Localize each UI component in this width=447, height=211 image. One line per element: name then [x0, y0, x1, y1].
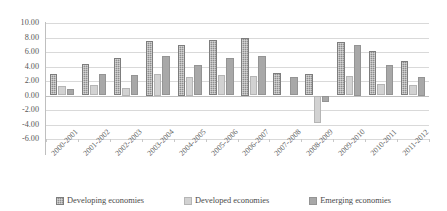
- bar-group: [365, 23, 397, 139]
- bar-group: [174, 23, 206, 139]
- bar-slot: [401, 23, 408, 139]
- bar[interactable]: [354, 45, 361, 96]
- bar-slot: [114, 23, 121, 139]
- bar[interactable]: [346, 76, 353, 96]
- bar[interactable]: [377, 84, 384, 96]
- legend-item-label: Developed economies: [195, 196, 269, 205]
- bar-slot: [58, 23, 65, 139]
- bar[interactable]: [194, 65, 201, 95]
- x-axis-tick-mark: [46, 139, 47, 142]
- bar[interactable]: [82, 64, 89, 96]
- bar-group: [269, 23, 301, 139]
- bar[interactable]: [58, 86, 65, 95]
- bar-slot: [218, 23, 225, 139]
- bar[interactable]: [146, 41, 153, 95]
- bar-group: [301, 23, 333, 139]
- bar[interactable]: [90, 85, 97, 95]
- bar-slot: [186, 23, 193, 139]
- bar[interactable]: [401, 61, 408, 95]
- bar[interactable]: [186, 77, 193, 95]
- bar[interactable]: [273, 73, 280, 95]
- bar-slot: [162, 23, 169, 139]
- bar-group: [46, 23, 78, 139]
- x-axis-tick-mark: [429, 139, 430, 142]
- bar-slot: [209, 23, 216, 139]
- bar-slot: [146, 23, 153, 139]
- bar[interactable]: [305, 74, 312, 95]
- bar[interactable]: [250, 76, 257, 96]
- legend-item[interactable]: Developing economies: [56, 196, 144, 205]
- x-axis-tick-mark: [206, 139, 207, 142]
- bar-slot: [369, 23, 376, 139]
- bar[interactable]: [369, 51, 376, 96]
- x-axis-tick-mark: [301, 139, 302, 142]
- bar-slot: [409, 23, 416, 139]
- bar[interactable]: [114, 58, 121, 96]
- bar-slot: [354, 23, 361, 139]
- plot-bars: [46, 23, 429, 139]
- bar[interactable]: [337, 42, 344, 96]
- bar-slot: [346, 23, 353, 139]
- x-axis-tick-mark: [142, 139, 143, 142]
- y-axis-tick-label: 4.00: [25, 63, 39, 71]
- x-axis-tick-mark: [365, 139, 366, 142]
- y-axis-tick-label: 2.00: [25, 77, 39, 85]
- bar[interactable]: [50, 74, 57, 95]
- bar-slot: [273, 23, 280, 139]
- x-axis-tick-mark: [110, 139, 111, 142]
- x-axis-tick-mark: [397, 139, 398, 142]
- bar[interactable]: [131, 75, 138, 95]
- x-axis-tick-mark: [174, 139, 175, 142]
- y-axis-tick-label: -2.00: [22, 106, 39, 114]
- x-axis-tick-mark: [238, 139, 239, 142]
- bar[interactable]: [122, 88, 129, 95]
- bar-slot: [122, 23, 129, 139]
- bar-slot: [290, 23, 297, 139]
- bar-chart: 10.008.006.004.002.000.00-2.00-4.00-6.00…: [0, 0, 447, 211]
- bar[interactable]: [290, 77, 297, 96]
- bar[interactable]: [409, 85, 416, 95]
- bar-group: [238, 23, 270, 139]
- bar[interactable]: [209, 40, 216, 96]
- bar[interactable]: [314, 96, 321, 124]
- bar[interactable]: [162, 56, 169, 95]
- bar[interactable]: [322, 96, 329, 103]
- legend-item[interactable]: Developed economies: [184, 196, 269, 205]
- bar-slot: [258, 23, 265, 139]
- bar-slot: [305, 23, 312, 139]
- bar-group: [333, 23, 365, 139]
- bar-group: [397, 23, 429, 139]
- bar[interactable]: [418, 77, 425, 95]
- bar[interactable]: [241, 38, 248, 96]
- bar-slot: [82, 23, 89, 139]
- bar-group: [142, 23, 174, 139]
- chart-legend: Developing economiesDeveloped economiesE…: [0, 196, 447, 205]
- bar[interactable]: [67, 89, 74, 96]
- bar[interactable]: [218, 75, 225, 95]
- bar-slot: [194, 23, 201, 139]
- bar[interactable]: [258, 56, 265, 95]
- y-axis-tick-label: 8.00: [25, 34, 39, 42]
- legend-item[interactable]: Emerging economies: [309, 196, 391, 205]
- bar-slot: [99, 23, 106, 139]
- legend-swatch-developing: [56, 197, 64, 205]
- bar-slot: [250, 23, 257, 139]
- x-axis-tick-mark: [78, 139, 79, 142]
- legend-item-label: Developing economies: [67, 196, 144, 205]
- legend-swatch-developed: [184, 197, 192, 205]
- bar-slot: [50, 23, 57, 139]
- y-axis-tick-label: 6.00: [25, 48, 39, 56]
- bar[interactable]: [154, 74, 161, 96]
- x-axis-labels: 2000-20012001-20022002-20032003-20042004…: [46, 140, 429, 182]
- bar-slot: [282, 23, 289, 139]
- bar-slot: [241, 23, 248, 139]
- bar[interactable]: [178, 45, 185, 96]
- bar-slot: [418, 23, 425, 139]
- bar-group: [78, 23, 110, 139]
- bar[interactable]: [386, 65, 393, 95]
- bar-group: [206, 23, 238, 139]
- bar-slot: [314, 23, 321, 139]
- bar-slot: [154, 23, 161, 139]
- bar[interactable]: [99, 74, 106, 95]
- bar[interactable]: [226, 58, 233, 96]
